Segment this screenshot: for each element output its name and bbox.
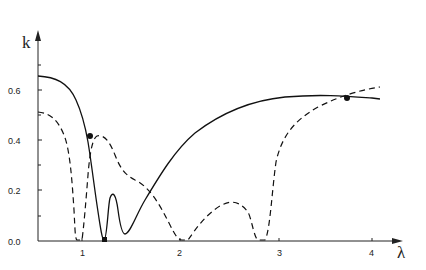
dashed-series-line (38, 87, 380, 240)
x-tick-label: 2 (177, 248, 182, 258)
chart: 0.0 0.2 0.4 0.6 1 2 3 4 k λ (0, 0, 426, 270)
y-axis-label: k (22, 33, 31, 52)
y-axis-arrow-icon (35, 30, 41, 41)
x-tick-label: 3 (277, 248, 282, 258)
x-axis-label: λ (397, 243, 406, 262)
x-tick-label: 4 (369, 248, 374, 258)
y-tick-label: 0.6 (8, 86, 21, 96)
y-tick-label: 0.4 (8, 136, 21, 146)
data-marker (102, 237, 107, 242)
data-marker (344, 95, 350, 101)
y-ticks (38, 65, 42, 216)
data-marker (87, 133, 93, 139)
y-tick-label: 0.2 (8, 186, 21, 196)
x-tick-label: 1 (80, 248, 85, 258)
y-tick-label: 0.0 (8, 237, 21, 247)
